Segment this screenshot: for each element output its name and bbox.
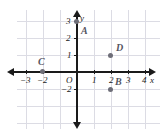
x-axis-left-arrow-icon <box>7 68 14 76</box>
data-point-a <box>74 19 79 24</box>
x-tick-label-2: 2 <box>109 76 114 85</box>
coordinate-plane-figure: −3 −2 1 2 3 4 O 3 2 1 −2 y x A D C B <box>0 0 160 129</box>
x-axis-tick <box>26 70 27 74</box>
y-axis-down-arrow-icon <box>73 122 81 129</box>
x-axis-tick <box>94 70 95 74</box>
y-axis-label: y <box>80 14 84 23</box>
y-tick-label-2: 2 <box>66 34 71 43</box>
x-tick-label-1: 1 <box>92 76 97 85</box>
gridline-horizontal <box>17 38 160 39</box>
data-point-b <box>108 87 113 92</box>
x-axis-label: x <box>150 76 154 85</box>
y-tick-label-neg2: −2 <box>61 85 72 94</box>
x-tick-label-4: 4 <box>142 76 147 85</box>
x-axis-tick <box>128 70 129 74</box>
gridline-vertical <box>60 10 61 129</box>
data-point-label-b: B <box>115 77 122 87</box>
y-tick-label-3: 3 <box>66 17 71 26</box>
y-axis-tick <box>74 55 78 56</box>
data-point-label-d: D <box>116 43 123 53</box>
data-point-label-a: A <box>81 26 88 36</box>
x-tick-label-3: 3 <box>126 76 131 85</box>
x-tick-label-neg2: −2 <box>37 76 48 85</box>
x-axis-tick <box>145 70 146 74</box>
y-axis-tick <box>74 38 78 39</box>
x-axis-tick <box>111 70 112 74</box>
gridline-horizontal <box>17 123 160 124</box>
y-axis-tick <box>74 89 78 90</box>
gridline-horizontal <box>17 21 160 22</box>
y-axis-line <box>76 17 78 122</box>
data-point-d <box>108 53 113 58</box>
x-tick-label-neg3: −3 <box>20 76 31 85</box>
gridline-horizontal <box>17 106 160 107</box>
gridline-horizontal <box>17 89 160 90</box>
y-tick-label-1: 1 <box>67 51 72 60</box>
data-point-label-c: C <box>38 57 45 67</box>
data-point-c <box>40 69 45 74</box>
